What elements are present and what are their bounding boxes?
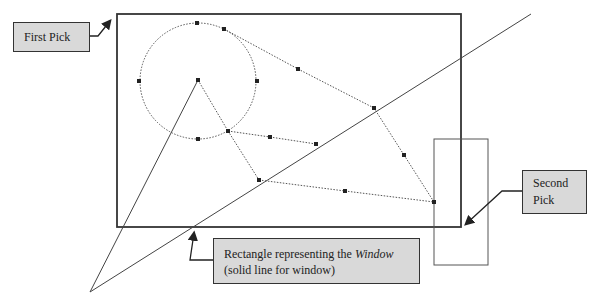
second-pick-arrow [466,191,522,224]
window-callout: Rectangle representing the Window (solid… [213,238,420,284]
second-pick-callout: Second Pick [522,170,587,214]
window-callout-prefix: Rectangle representing the [224,247,355,261]
center-line [90,80,198,292]
window-arrow [190,233,213,260]
first-pick-label: First Pick [24,30,70,44]
second-pick-label-line1: Second [533,175,586,192]
window-rectangle [117,14,461,227]
window-callout-italic: Window [355,247,394,261]
window-callout-line1: Rectangle representing the Window [224,246,419,262]
first-pick-callout: First Pick [13,22,90,52]
second-pick-label-line2: Pick [533,192,586,209]
first-pick-arrow [90,21,110,36]
dotted-edges [198,29,434,202]
diagram-canvas: First Pick Second Pick Rectangle represe… [0,0,603,302]
window-callout-line2: (solid line for window) [224,262,419,278]
